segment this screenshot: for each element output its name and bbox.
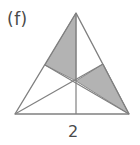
shaded-region-upper-left [45, 13, 76, 81]
figure-container: (f) 2 [0, 0, 140, 145]
shaded-region-right [76, 64, 129, 114]
part-label: (f) [7, 11, 28, 28]
base-length-label: 2 [68, 124, 79, 140]
